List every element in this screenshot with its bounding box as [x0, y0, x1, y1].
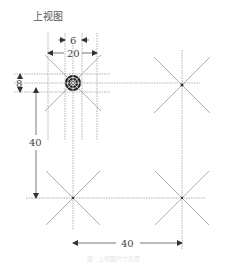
dim-bottom-horizontal: 40 — [121, 238, 134, 249]
caption: 图 · 上视图尺寸示意 — [0, 254, 227, 263]
dim-left-vertical: 40 — [29, 137, 42, 148]
top-view-drawing: 6 20 8 40 40 — [0, 0, 227, 266]
dim-top-inner: 6 — [70, 35, 76, 46]
dim-left-small: 8 — [16, 78, 22, 89]
hub-connector-icon — [65, 75, 81, 91]
dimension-lines — [20, 40, 182, 243]
junction-dots — [72, 84, 184, 200]
grid-lines — [14, 33, 205, 250]
dim-top-outer: 20 — [67, 48, 80, 59]
